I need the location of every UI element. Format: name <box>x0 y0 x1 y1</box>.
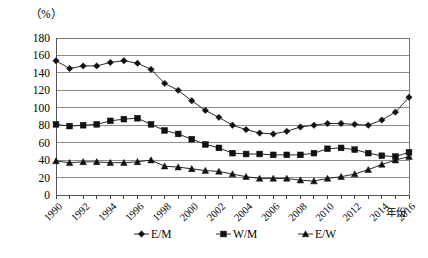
y-tick-label: 160 <box>33 49 51 61</box>
data-point <box>202 142 208 148</box>
x-tick-label: 2012 <box>340 201 363 224</box>
data-point <box>338 145 344 151</box>
x-tick-label: 2006 <box>259 201 282 224</box>
legend-label: W/M <box>233 228 257 240</box>
data-point <box>94 63 100 69</box>
data-point <box>121 116 127 122</box>
legend-marker <box>138 231 144 237</box>
data-point <box>379 117 385 123</box>
data-point <box>53 158 60 164</box>
y-tick-label: 140 <box>33 67 51 79</box>
data-point <box>229 122 235 128</box>
data-point <box>270 131 276 137</box>
y-tick-label: 80 <box>39 119 51 131</box>
line-chart: 020406080100120140160180 199019921994199… <box>0 0 428 258</box>
x-tick-label: 1992 <box>69 201 92 224</box>
y-axis-unit-label: （%） <box>30 8 62 20</box>
data-series-layer <box>53 57 413 183</box>
data-point <box>243 126 249 132</box>
data-point <box>148 121 154 127</box>
y-tick-label: 60 <box>39 137 51 149</box>
x-tick-label: 1994 <box>96 200 119 223</box>
data-point <box>297 152 303 158</box>
data-point <box>53 121 59 127</box>
x-tick-label: 2010 <box>313 201 336 224</box>
data-point <box>53 57 59 63</box>
chart-container: 020406080100120140160180 199019921994199… <box>0 0 428 258</box>
legend-item-W-M: W/M <box>216 228 257 240</box>
data-point <box>379 161 386 167</box>
x-tick-label: 1998 <box>150 201 173 224</box>
y-tick-label: 40 <box>39 154 51 166</box>
y-tick-label: 180 <box>33 32 51 44</box>
x-axis-ticks: 1990199219941996199820002002200420062008… <box>42 195 418 223</box>
data-point <box>256 130 262 136</box>
data-point <box>325 146 331 152</box>
data-point <box>189 136 195 142</box>
data-point <box>216 145 222 151</box>
data-point <box>135 115 141 121</box>
y-tick-label: 20 <box>39 172 51 184</box>
data-point <box>216 114 222 120</box>
data-point <box>162 128 168 134</box>
data-point <box>284 128 290 134</box>
data-point <box>311 150 317 156</box>
data-point <box>94 121 100 127</box>
data-point <box>80 63 86 69</box>
x-tick-label: 1990 <box>42 201 65 224</box>
data-point <box>311 122 317 128</box>
data-point <box>270 152 276 158</box>
data-point <box>175 131 181 137</box>
legend-label: E/W <box>315 228 336 240</box>
legend-label: E/M <box>151 228 171 240</box>
x-tick-label: 1996 <box>123 201 146 224</box>
x-tick-label: 2000 <box>178 201 201 224</box>
x-axis-title: 年份 <box>386 206 407 218</box>
data-point <box>107 118 113 124</box>
data-point <box>107 59 113 65</box>
legend-item-E-M: E/M <box>134 228 171 240</box>
data-point <box>365 150 371 156</box>
data-point <box>80 122 86 128</box>
data-point <box>66 65 72 71</box>
data-point <box>352 147 358 153</box>
data-point <box>230 150 236 156</box>
data-point <box>379 153 385 159</box>
data-point <box>365 166 372 172</box>
data-point <box>134 60 140 66</box>
x-tick-label: 2008 <box>286 201 309 224</box>
data-point <box>365 122 371 128</box>
y-axis-ticks: 020406080100120140160180 <box>33 32 51 201</box>
y-tick-label: 100 <box>33 102 51 114</box>
grid-layer <box>56 38 409 178</box>
data-point <box>351 121 357 127</box>
series-E-W <box>53 153 413 184</box>
chart-legend: E/MW/ME/W <box>134 228 336 240</box>
data-point <box>243 151 249 157</box>
data-point <box>284 152 290 158</box>
x-tick-label: 2002 <box>205 201 228 224</box>
data-point <box>257 151 263 157</box>
y-tick-label: 120 <box>33 84 51 96</box>
legend-item-E-W: E/W <box>298 228 336 240</box>
data-point <box>67 123 73 129</box>
data-point <box>121 57 127 63</box>
y-tick-label: 0 <box>44 189 50 201</box>
x-tick-label: 2004 <box>232 200 255 223</box>
data-point <box>351 171 358 177</box>
legend-marker <box>221 231 227 237</box>
